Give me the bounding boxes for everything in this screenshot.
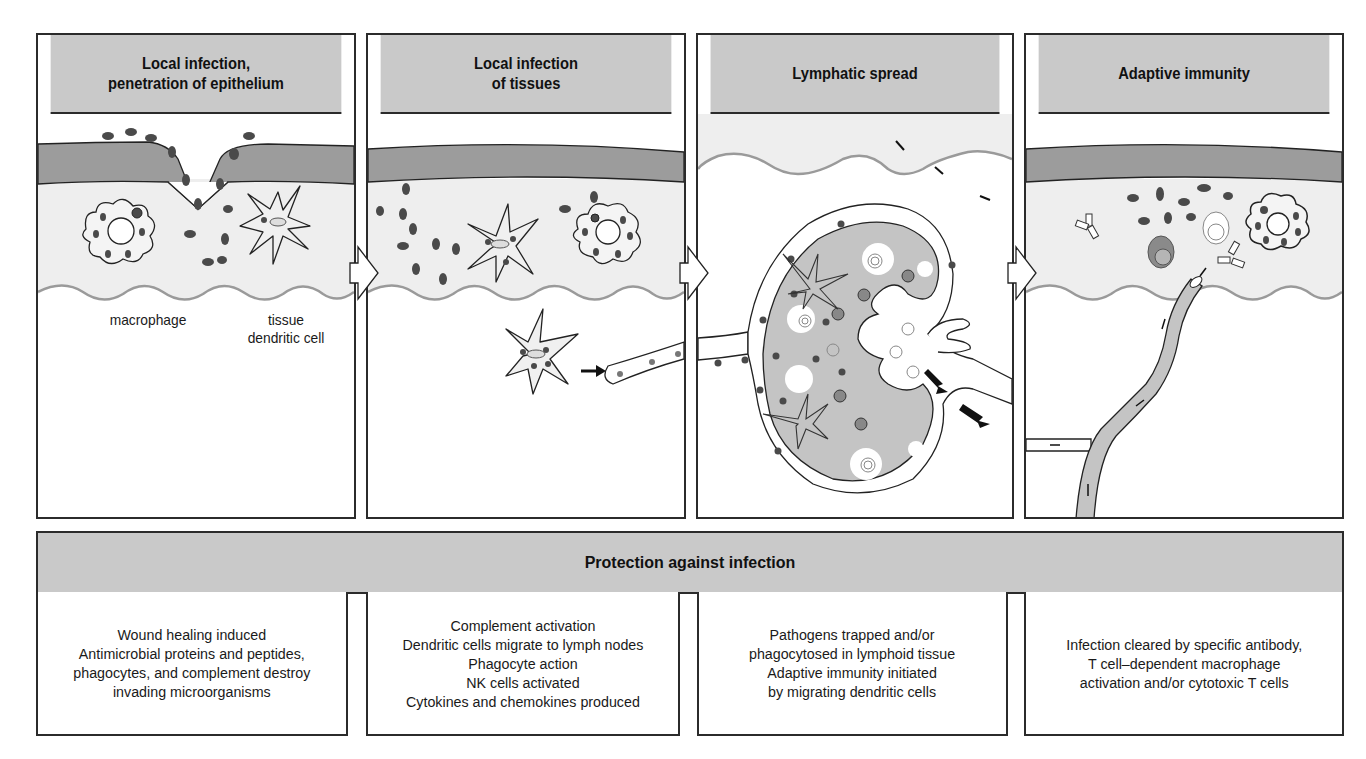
outcome-line: invading microorganisms: [73, 682, 310, 701]
stage-title: Lymphatic spread: [792, 64, 917, 84]
outcome-line: Phagocyte action: [403, 654, 644, 673]
stage-arrow-icon: [1006, 245, 1038, 301]
stage-illustration: [698, 114, 1012, 517]
outcome-list: Wound healing induced Antimicrobial prot…: [73, 625, 310, 701]
stage-header: Local infection, penetration of epitheli…: [51, 35, 342, 114]
stage-panel-lymphatic-spread: Lymphatic spread: [696, 33, 1014, 519]
outcome-line: activation and/or cytotoxic T cells: [1066, 673, 1302, 692]
outcome-line: Complement activation: [403, 616, 644, 635]
stage-header: Local infection of tissues: [381, 35, 672, 114]
outcome-box-adaptive-immunity: Infection cleared by specific antibody, …: [1024, 592, 1344, 736]
outcome-line: by migrating dendritic cells: [749, 682, 955, 701]
outcome-line: Cytokines and chemokines produced: [403, 692, 644, 711]
stage-panel-penetration: Local infection, penetration of epitheli…: [36, 33, 356, 519]
plasma-cell-icon: [1148, 236, 1174, 268]
outcome-line: Adaptive immunity initiated: [749, 663, 955, 682]
stage-title: Adaptive immunity: [1118, 64, 1250, 84]
tissue-infection-illustration: [368, 114, 684, 517]
macrophage-label: macrophage: [93, 311, 203, 329]
migrating-dendritic-cell-icon: [506, 309, 578, 394]
stage-header: Lymphatic spread: [711, 35, 1000, 114]
outcome-line: Dendritic cells migrate to lymph nodes: [403, 635, 644, 654]
adaptive-immunity-illustration: [1026, 114, 1342, 517]
stage-illustration: [368, 114, 684, 517]
dendritic-cell-label: tissue dendritic cell: [231, 311, 341, 347]
outcome-line: phagocytes, and complement destroy: [73, 663, 310, 682]
outcome-list: Infection cleared by specific antibody, …: [1066, 635, 1302, 692]
stage-panel-adaptive-immunity: Adaptive immunity: [1024, 33, 1344, 519]
outcome-line: NK cells activated: [403, 673, 644, 692]
outcome-line: Infection cleared by specific antibody,: [1066, 635, 1302, 654]
outcome-line: Wound healing induced: [73, 625, 310, 644]
outcome-list: Complement activation Dendritic cells mi…: [403, 616, 644, 711]
outcome-box-tissue-infection: Complement activation Dendritic cells mi…: [366, 592, 680, 736]
t-cell-icon: [1203, 212, 1229, 244]
outcome-line: phagocytosed in lymphoid tissue: [749, 644, 955, 663]
protection-banner: Protection against infection: [36, 531, 1344, 594]
stage-title: Local infection of tissues: [474, 54, 578, 94]
stage-illustration: [1026, 114, 1342, 517]
stage-header: Adaptive immunity: [1039, 35, 1330, 114]
stage-illustration: macrophage tissue dendritic cell: [38, 114, 354, 517]
stage-title: Local infection, penetration of epitheli…: [108, 54, 284, 94]
outcome-line: Antimicrobial proteins and peptides,: [73, 644, 310, 663]
outcome-list: Pathogens trapped and/or phagocytosed in…: [749, 625, 955, 701]
outcome-box-penetration: Wound healing induced Antimicrobial prot…: [36, 592, 348, 736]
outcome-box-lymphatic-spread: Pathogens trapped and/or phagocytosed in…: [697, 592, 1008, 736]
banner-title: Protection against infection: [585, 554, 796, 572]
stage-panel-tissue-infection: Local infection of tissues: [366, 33, 686, 519]
outcome-line: Pathogens trapped and/or: [749, 625, 955, 644]
stage-arrow-icon: [348, 245, 380, 301]
stage-arrow-icon: [678, 245, 710, 301]
lymph-node-illustration: [698, 114, 1012, 517]
outcome-line: T cell–dependent macrophage: [1066, 654, 1302, 673]
